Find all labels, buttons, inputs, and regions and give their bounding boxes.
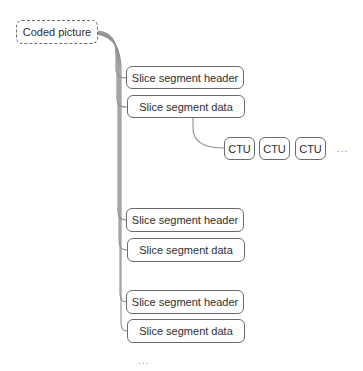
slice-segment-header-node-2: Slice segment header <box>126 208 244 232</box>
ctu-more-ellipsis: ... <box>337 143 348 154</box>
ctu-node-1: CTU <box>224 137 255 160</box>
slice-segment-data-label: Slice segment data <box>139 325 233 337</box>
slice-segment-data-node-1: Slice segment data <box>127 95 245 118</box>
ctu-label: CTU <box>299 143 322 155</box>
slice-segment-data-label: Slice segment data <box>139 101 233 113</box>
ctu-node-2: CTU <box>259 137 290 160</box>
slice-segment-data-node-3: Slice segment data <box>127 319 245 343</box>
connector-lines <box>0 0 363 371</box>
slice-segment-data-node-2: Slice segment data <box>127 238 245 262</box>
ctu-label: CTU <box>228 143 251 155</box>
ctu-label: CTU <box>263 143 286 155</box>
coded-picture-node: Coded picture <box>16 20 98 44</box>
slice-segment-header-label: Slice segment header <box>132 296 238 308</box>
slice-segment-header-label: Slice segment header <box>132 214 238 226</box>
slices-more-ellipsis: ... <box>138 355 149 366</box>
slice-segment-header-node-3: Slice segment header <box>126 290 244 314</box>
slice-segment-header-node-1: Slice segment header <box>126 66 244 89</box>
slice-segment-data-label: Slice segment data <box>139 244 233 256</box>
coded-picture-diagram: Coded picture Slice segment header Slice… <box>0 0 363 371</box>
coded-picture-label: Coded picture <box>23 26 92 38</box>
slice-segment-header-label: Slice segment header <box>132 72 238 84</box>
ctu-node-3: CTU <box>295 137 326 160</box>
